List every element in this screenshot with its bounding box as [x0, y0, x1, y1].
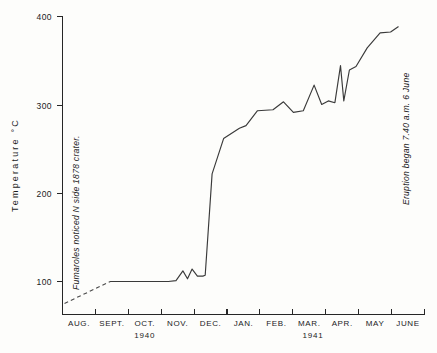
- x-label-may: MAY: [366, 319, 385, 328]
- y-tick-label-400: 400: [37, 12, 52, 22]
- x-label-dec: DEC.: [200, 319, 222, 328]
- y-tick-label-300: 300: [37, 101, 52, 111]
- x-label-feb: FEB.: [266, 319, 286, 328]
- y-axis-title: Temperature °C: [10, 118, 20, 212]
- y-tick-label-200: 200: [37, 189, 52, 199]
- x-axis-ticks: [63, 309, 425, 315]
- x-label-nov: NOV.: [167, 319, 188, 328]
- x-label-oct: OCT.: [134, 319, 155, 328]
- y-axis-ticks: [57, 17, 63, 282]
- x-label-mar: MAR.: [298, 319, 320, 328]
- fumaroles-noticed-annotation: Fumaroles noticed N side 1878 crater.: [71, 135, 81, 290]
- x-label-sept: SEPT.: [99, 319, 124, 328]
- x-label-aug: AUG.: [68, 319, 90, 328]
- x-label-apr: APR.: [332, 319, 353, 328]
- temperature-chart-figure: 400 300 200 100 Temperature °C AUG. SEPT…: [0, 0, 437, 353]
- y-tick-label-100: 100: [37, 277, 52, 287]
- x-axis-labels: AUG. SEPT. OCT. NOV. DEC. JAN. FEB. MAR.…: [68, 319, 420, 328]
- y-axis-labels: 400 300 200 100: [37, 12, 52, 287]
- year-label-1941: 1941: [303, 331, 324, 340]
- eruption-began-annotation: Eruption began 7.40 a.m. 6 June: [401, 73, 411, 205]
- x-label-june: JUNE: [396, 319, 419, 328]
- chart-svg: 400 300 200 100 Temperature °C AUG. SEPT…: [0, 0, 437, 353]
- x-label-jan: JAN.: [234, 319, 254, 328]
- series-fumarole-temperature-line: [110, 27, 398, 282]
- year-label-1940: 1940: [134, 331, 155, 340]
